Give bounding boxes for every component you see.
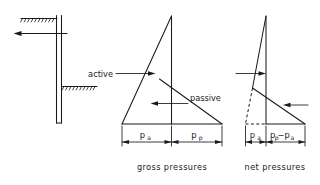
net-active-pressure-line <box>253 16 267 88</box>
gross-passive-label: passive <box>190 93 221 103</box>
net-active-leader-head <box>259 71 267 76</box>
gross-passive-leader-head <box>151 101 159 106</box>
gross-pressures-caption: gross pressures <box>137 162 207 172</box>
figure-root: active passive p a <box>0 0 320 185</box>
gross-dim-label-pa: p a <box>140 130 151 141</box>
panel-wall-section <box>14 16 98 124</box>
net-dim-pa-head-left <box>246 140 253 144</box>
net-passive-leader-head <box>283 103 291 108</box>
net-passive-pressure-line <box>253 88 306 124</box>
gross-dim-pp-head-left <box>172 140 179 144</box>
net-active-dashed-extension <box>246 88 253 124</box>
gross-active-pressure-line <box>122 16 172 124</box>
gross-dim-label-pp: p p <box>191 130 202 142</box>
force-arrow-head <box>14 31 22 36</box>
gross-dim-pa-head-left <box>122 140 129 144</box>
net-pa-sub: a <box>257 134 261 141</box>
net-ppa-minus: −p <box>278 130 290 140</box>
net-dim-ppa-head-right <box>299 140 306 144</box>
gross-pa-base: p <box>140 130 145 140</box>
net-pa-base: p <box>250 130 255 140</box>
panel-gross-pressures: active passive p a <box>88 16 222 172</box>
net-pressures-caption: net pressures <box>245 162 306 172</box>
net-ppa-sub2: a <box>291 134 295 141</box>
gross-active-leader-head <box>148 71 156 76</box>
gross-pp-base: p <box>191 130 196 140</box>
gross-pa-sub: a <box>147 134 151 141</box>
gross-pp-sub: p <box>199 134 203 142</box>
gross-dim-pa-head-right <box>165 140 172 144</box>
panel-net-pressures: p a p p −p a net pressures <box>236 16 308 172</box>
diagram-canvas: active passive p a <box>0 0 320 185</box>
net-dim-ppa-head-left <box>266 140 273 144</box>
lower-ground-hatching <box>62 87 95 91</box>
upper-ground-hatching <box>21 19 55 23</box>
net-dim-label-pa: p a <box>250 130 261 141</box>
gross-dim-pp-head-right <box>215 140 222 144</box>
net-dim-label-ppa: p p −p a <box>270 130 295 142</box>
gross-active-label: active <box>88 69 113 79</box>
